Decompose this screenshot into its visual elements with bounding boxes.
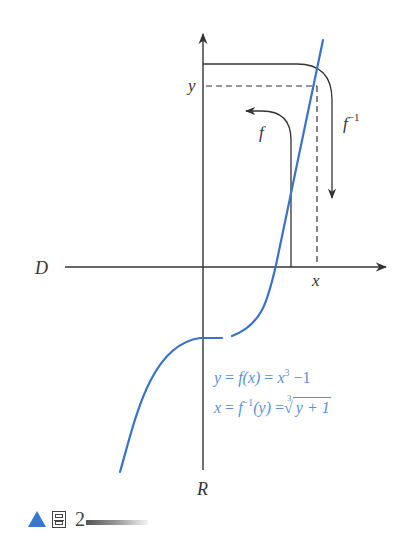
axis-label-d: D <box>35 259 48 277</box>
label-f-inverse: f−1 <box>343 112 359 132</box>
caption-gradient-bar <box>86 520 148 525</box>
function-inverse-diagram <box>0 0 410 540</box>
eq2-eq2: = <box>271 399 284 416</box>
equation-forward: y = f(x) = x3 −1 <box>214 370 311 386</box>
eq2-arg: (y) <box>253 399 271 416</box>
cubic-curve-upper <box>232 40 323 336</box>
equation-inverse: x = f−1(y) =3√y + 1 <box>214 400 331 416</box>
figure-caption: 2 <box>28 508 148 530</box>
figure-word-glyph <box>52 511 66 528</box>
triangle-marker-icon <box>28 511 46 527</box>
eq2-func-sup: −1 <box>243 397 254 408</box>
inverse-arrow <box>203 64 332 198</box>
cubic-curve <box>120 338 222 472</box>
forward-arrow <box>246 111 291 267</box>
axis-label-r: R <box>197 480 208 498</box>
radicand-text: y + 1 <box>296 399 330 416</box>
eq1-func: f(x) <box>238 369 260 386</box>
eq1-eq: = <box>221 369 238 386</box>
eq1-tail: −1 <box>289 369 310 386</box>
marker-x: x <box>312 272 320 289</box>
marker-y: y <box>188 77 196 94</box>
label-f: f <box>259 124 264 141</box>
eq2-eq: = <box>221 399 238 416</box>
eq1-eq2: = <box>260 369 277 386</box>
label-f-inverse-sup: −1 <box>348 111 360 123</box>
cube-root: 3√y + 1 <box>284 400 331 416</box>
radicand: y + 1 <box>293 397 331 416</box>
figure-number: 2 <box>75 508 85 531</box>
